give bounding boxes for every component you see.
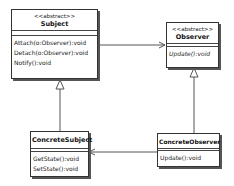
class-concrete-subject[interactable]: ConcreteSubject GetState():void SetState…: [30, 131, 89, 177]
operation-update: Update():void: [160, 153, 217, 163]
class-header: ConcreteSubject: [31, 132, 88, 149]
class-header: <<abstract>> Observer: [167, 23, 218, 44]
operations-compartment: Update():void: [167, 47, 218, 61]
class-subject[interactable]: <<abstract>> Subject Attach(o:Observer):…: [11, 9, 98, 79]
class-observer[interactable]: <<abstract>> Observer Update():void: [166, 22, 219, 68]
class-name: Subject: [13, 20, 96, 29]
operations-compartment: Update():void: [158, 151, 219, 165]
operation-setstate: SetState():void: [33, 164, 86, 174]
operations-compartment: GetState():void SetState():void: [31, 152, 88, 176]
class-header: <<abstract>> Subject: [12, 10, 97, 31]
class-name: Observer: [168, 33, 217, 42]
hollow-triangle-arrowhead-icon: [56, 80, 64, 89]
stereotype-label: <<abstract>>: [13, 12, 96, 20]
class-name: ConcreteObserver: [159, 137, 218, 146]
operation-attach: Attach(o:Observer):void: [14, 38, 95, 48]
association-subject-observer: [98, 42, 165, 48]
class-header: ConcreteObserver: [158, 134, 219, 149]
class-concrete-observer[interactable]: ConcreteObserver Update():void: [157, 133, 220, 167]
operation-notify: Notify():void: [14, 58, 95, 68]
generalization-concreteobserver-observer: [190, 68, 198, 133]
operation-getstate: GetState():void: [33, 154, 86, 164]
association-concreteobserver-concretesubject: [89, 149, 157, 155]
operations-compartment: Attach(o:Observer):void Detach(o:Observe…: [12, 36, 97, 70]
stereotype-label: <<abstract>>: [168, 25, 217, 33]
generalization-concretesubject-subject: [56, 80, 64, 131]
class-name: ConcreteSubject: [32, 136, 87, 145]
hollow-triangle-arrowhead-icon: [190, 68, 198, 77]
operation-detach: Detach(o:Observer):void: [14, 48, 95, 58]
operation-update: Update():void: [169, 49, 216, 59]
uml-diagram-canvas: <<abstract>> Subject Attach(o:Observer):…: [0, 0, 234, 186]
